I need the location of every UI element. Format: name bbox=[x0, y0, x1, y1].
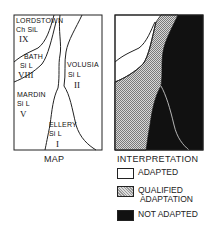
label-volusia-texture: Si L bbox=[68, 71, 81, 78]
not-adapted-swatch bbox=[117, 210, 134, 221]
label-mardin-class: V bbox=[20, 109, 27, 119]
legend-item-qualified: QUALIFIED ADAPTATION bbox=[117, 186, 193, 204]
legend-item-adapted: ADAPTED bbox=[117, 168, 178, 179]
label-bath-class: VIII bbox=[18, 70, 34, 80]
qualified-swatch bbox=[117, 186, 134, 197]
label-volusia-class: II bbox=[74, 80, 80, 90]
label-ellery-class: I bbox=[56, 139, 59, 149]
label-ellery: ELLERY bbox=[49, 121, 77, 128]
label-lordstown: LORDSTOWN bbox=[16, 17, 63, 24]
label-mardin-texture: Si L bbox=[17, 100, 30, 107]
legend-label: QUALIFIED ADAPTATION bbox=[138, 186, 193, 204]
interpretation-panel bbox=[115, 15, 203, 150]
label-mardin: MARDIN bbox=[17, 91, 46, 98]
label-ellery-texture: Si L bbox=[49, 130, 62, 137]
legend-label: ADAPTED bbox=[138, 168, 178, 177]
map-caption: MAP bbox=[44, 154, 64, 164]
legend-label: NOT ADAPTED bbox=[138, 210, 198, 219]
label-bath-texture: Si L bbox=[20, 62, 33, 69]
adapted-swatch bbox=[117, 168, 134, 179]
label-lordstown-texture: Ch SiL bbox=[16, 26, 38, 33]
label-lordstown-class: IX bbox=[19, 34, 29, 44]
soil-map-panel: LORDSTOWN Ch SiL IX BATH Si L VIII VOLUS… bbox=[14, 15, 102, 150]
label-volusia: VOLUSIA bbox=[67, 61, 99, 68]
legend-item-not-adapted: NOT ADAPTED bbox=[117, 210, 198, 221]
label-bath: BATH bbox=[24, 53, 43, 60]
interpretation-caption: INTERPRETATION bbox=[117, 154, 198, 164]
